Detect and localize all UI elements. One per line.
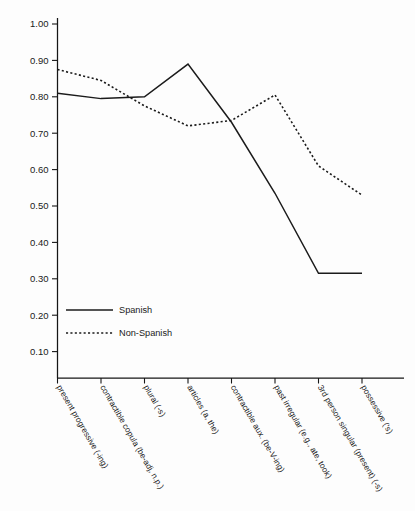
x-axis xyxy=(58,378,405,384)
x-tick-label: plural (-s) xyxy=(142,383,168,419)
y-tick-label: 0.40 xyxy=(30,237,49,248)
legend-label-non-spanish: Non-Spanish xyxy=(119,328,172,338)
x-tick-label: present progressive (-ing) xyxy=(55,383,111,470)
y-tick-label: 0.30 xyxy=(30,273,49,284)
y-axis: 1.000.900.800.700.600.500.400.300.200.10 xyxy=(30,18,58,378)
x-tick-label: articles (a, the) xyxy=(185,383,221,436)
y-tick-label: 0.10 xyxy=(30,346,49,357)
chart-container: 1.000.900.800.700.600.500.400.300.200.10… xyxy=(0,0,415,511)
x-tick-label: possessive ('s) xyxy=(359,383,395,435)
legend-label-spanish: Spanish xyxy=(119,305,152,315)
y-tick-label: 0.50 xyxy=(30,200,49,211)
line-chart: 1.000.900.800.700.600.500.400.300.200.10… xyxy=(0,0,415,511)
chart-legend: SpanishNon-Spanish xyxy=(66,305,172,338)
series-line-spanish xyxy=(58,64,363,273)
y-tick-label: 0.80 xyxy=(30,91,49,102)
y-tick-label: 1.00 xyxy=(30,18,49,29)
series-line-non-spanish xyxy=(58,70,363,196)
series-lines xyxy=(58,64,363,273)
y-tick-label: 0.20 xyxy=(30,310,49,321)
y-tick-label: 0.90 xyxy=(30,55,49,66)
x-axis-tick-labels: present progressive (-ing)contractible c… xyxy=(55,383,396,493)
y-tick-label: 0.60 xyxy=(30,164,49,175)
y-tick-label: 0.70 xyxy=(30,128,49,139)
